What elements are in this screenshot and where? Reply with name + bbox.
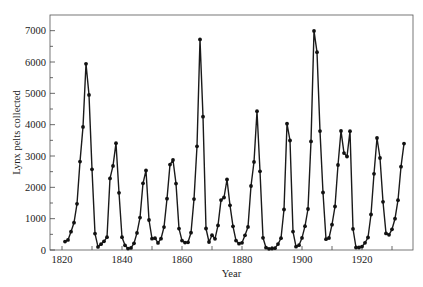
x-tick-label: 1880 (232, 254, 253, 265)
data-point (153, 236, 157, 240)
data-point (312, 29, 316, 33)
data-markers (63, 29, 406, 251)
data-point (246, 225, 250, 229)
data-point (141, 181, 145, 185)
data-point (117, 191, 121, 195)
data-point (75, 202, 79, 206)
data-point (339, 129, 343, 133)
x-axis: 182018401860188019001920 (52, 246, 393, 265)
data-point (132, 241, 136, 245)
data-point (213, 237, 217, 241)
data-point (282, 208, 286, 212)
data-point (219, 198, 223, 202)
data-point (102, 239, 106, 243)
data-point (285, 122, 289, 126)
data-point (252, 160, 256, 164)
data-point (144, 169, 148, 173)
data-point (234, 239, 238, 243)
data-point (195, 144, 199, 148)
y-tick-label: 6000 (25, 57, 46, 68)
data-point (204, 227, 208, 231)
x-tick-label: 1900 (292, 254, 313, 265)
data-point (240, 241, 244, 245)
data-point (348, 129, 352, 133)
data-point (381, 200, 385, 204)
data-point (78, 160, 82, 164)
data-point (159, 237, 163, 241)
data-point (291, 230, 295, 234)
y-tick-label: 3000 (25, 151, 46, 162)
x-tick-label: 1840 (112, 254, 133, 265)
data-point (69, 230, 73, 234)
data-point (138, 216, 142, 220)
data-point (336, 163, 340, 167)
data-point (105, 235, 109, 239)
data-point (309, 140, 313, 144)
data-point (165, 197, 169, 201)
data-point (216, 224, 220, 228)
data-point (387, 233, 391, 237)
data-point (186, 240, 190, 244)
data-point (225, 178, 229, 182)
data-point (351, 227, 355, 231)
data-point (123, 243, 127, 247)
data-point (402, 142, 406, 146)
data-point (366, 236, 370, 240)
data-point (321, 191, 325, 195)
data-point (171, 158, 175, 162)
data-point (168, 163, 172, 167)
data-point (372, 172, 376, 176)
data-point (87, 93, 91, 97)
data-point (90, 167, 94, 171)
data-point (201, 115, 205, 119)
data-point (273, 246, 277, 250)
data-point (297, 243, 301, 247)
data-point (369, 213, 373, 217)
data-point (207, 240, 211, 244)
data-point (156, 241, 160, 245)
data-point (111, 164, 115, 168)
data-point (315, 50, 319, 54)
data-point (279, 236, 283, 240)
data-point (177, 227, 181, 231)
data-point (189, 231, 193, 235)
data-point (249, 184, 253, 188)
data-point (327, 236, 331, 240)
data-point (288, 139, 292, 143)
data-point (66, 238, 70, 242)
data-point (231, 224, 235, 228)
y-axis-title: Lynx pelts collected (11, 89, 22, 174)
data-point (129, 246, 133, 250)
data-point (222, 196, 226, 200)
data-point (276, 242, 280, 246)
data-point (192, 197, 196, 201)
y-tick-label: 0 (41, 245, 46, 256)
data-point (393, 217, 397, 221)
data-point (120, 235, 124, 239)
data-point (135, 231, 139, 235)
data-point (306, 207, 310, 211)
data-point (228, 203, 232, 207)
data-point (258, 169, 262, 173)
y-tick-label: 4000 (25, 119, 46, 130)
data-point (210, 233, 214, 237)
y-tick-label: 7000 (25, 25, 46, 36)
x-tick-label: 1820 (52, 254, 73, 265)
data-point (147, 218, 151, 222)
data-point (345, 155, 349, 159)
data-point (114, 141, 118, 145)
lynx-line-chart: 01000200030004000500060007000 1820184018… (0, 0, 423, 287)
data-point (96, 245, 100, 249)
data-point (243, 233, 247, 237)
data-point (162, 225, 166, 229)
data-point (81, 125, 85, 129)
data-point (399, 165, 403, 169)
data-point (198, 38, 202, 42)
data-point (93, 232, 97, 236)
data-point (375, 136, 379, 140)
data-point (72, 221, 76, 225)
x-tick-label: 1860 (172, 254, 193, 265)
data-point (342, 151, 346, 155)
series-line (65, 31, 404, 249)
data-point (363, 241, 367, 245)
